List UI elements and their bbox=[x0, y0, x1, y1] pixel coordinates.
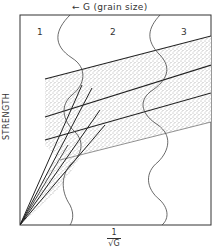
x-axis-numerator: 1 bbox=[107, 229, 121, 239]
arrow-left-icon: ← bbox=[72, 2, 80, 12]
y-axis-label: STRENGTH bbox=[3, 93, 11, 140]
grain-size-axis-label: ← G (grain size) bbox=[72, 3, 148, 12]
zone-label-1: 1 bbox=[37, 28, 43, 37]
zone-label-3: 3 bbox=[181, 28, 187, 37]
grain-size-text: G (grain size) bbox=[83, 2, 148, 12]
scatter-band bbox=[45, 36, 211, 160]
strength-vs-grain-size-diagram bbox=[0, 0, 215, 252]
x-axis-denominator: √G bbox=[107, 239, 121, 248]
zone-label-2: 2 bbox=[110, 28, 116, 37]
x-axis-label: 1 √G bbox=[107, 229, 121, 248]
